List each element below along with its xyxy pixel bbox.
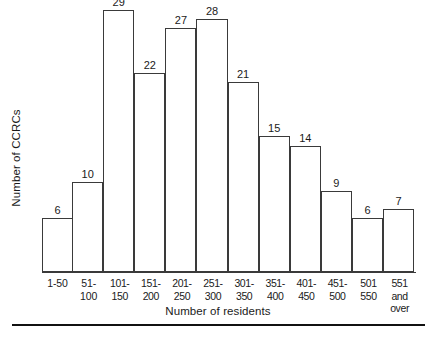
- bar-value-label: 6: [353, 204, 382, 216]
- bar-slot: 10: [73, 10, 104, 272]
- bar[interactable]: 21: [228, 82, 259, 272]
- bar-slot: 22: [135, 10, 166, 272]
- bar-slot: 6: [353, 10, 384, 272]
- bar-value-label: 10: [73, 168, 102, 180]
- bar-value-label: 28: [197, 5, 226, 17]
- bar-slot: 6: [42, 10, 73, 272]
- bar-value-label: 29: [104, 0, 133, 8]
- bar-value-label: 9: [322, 177, 351, 189]
- bar[interactable]: 6: [42, 218, 73, 272]
- bar[interactable]: 27: [165, 28, 196, 272]
- x-axis-title: Number of residents: [0, 305, 436, 317]
- bar[interactable]: 7: [383, 209, 414, 272]
- bar-value-label: 22: [135, 59, 164, 71]
- bar-slot: 29: [104, 10, 135, 272]
- bar[interactable]: 15: [259, 136, 290, 272]
- y-axis-title: Number of CCRCs: [10, 83, 22, 233]
- bar[interactable]: 14: [290, 146, 321, 272]
- bar-value-label: 14: [291, 132, 320, 144]
- bar-series: 61029222728211514967: [42, 10, 416, 272]
- bar-slot: 28: [197, 10, 228, 272]
- bar-slot: 27: [166, 10, 197, 272]
- bar[interactable]: 28: [196, 19, 227, 272]
- bar-slot: 7: [384, 10, 415, 272]
- bottom-rule: [12, 324, 425, 326]
- bar-slot: 9: [322, 10, 353, 272]
- bar[interactable]: 9: [321, 191, 352, 272]
- bar[interactable]: 22: [134, 73, 165, 272]
- bar-slot: 15: [260, 10, 291, 272]
- bar-value-label: 6: [43, 204, 72, 216]
- bar[interactable]: 6: [352, 218, 383, 272]
- bar[interactable]: 10: [72, 182, 103, 272]
- bar-value-label: 21: [229, 68, 258, 80]
- bar[interactable]: 29: [103, 10, 134, 272]
- bar-slot: 21: [229, 10, 260, 272]
- plot-area: 61029222728211514967: [42, 10, 416, 273]
- bar-value-label: 15: [260, 122, 289, 134]
- bar-value-label: 7: [384, 195, 413, 207]
- bar-slot: 14: [291, 10, 322, 272]
- histogram-figure: Number of CCRCs 61029222728211514967 1-5…: [0, 0, 436, 337]
- x-axis-baseline: [42, 272, 416, 273]
- bar-value-label: 27: [166, 14, 195, 26]
